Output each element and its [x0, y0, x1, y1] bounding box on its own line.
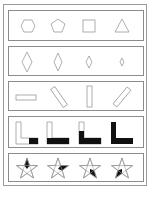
row-l-shapes — [8, 116, 144, 148]
rectangle-horizontal-icon — [16, 95, 36, 100]
triangle-icon — [115, 19, 129, 32]
star-4-icon — [112, 158, 133, 178]
rectangle-vertical-icon — [87, 86, 92, 107]
hexagon-icon — [21, 20, 35, 32]
diamond-medium-icon — [54, 53, 62, 71]
row-diamonds — [8, 46, 144, 76]
diamond-small-icon — [86, 56, 92, 68]
pentagon-icon — [51, 19, 65, 32]
star-3-icon — [80, 158, 101, 178]
star-2-icon — [48, 158, 69, 178]
l-shape-4-icon — [111, 122, 133, 144]
rectangle-diagonal-down-icon — [51, 87, 68, 108]
l-shape-1-icon — [16, 122, 38, 144]
l-shape-3-icon — [79, 122, 101, 144]
row-polygons — [8, 10, 144, 41]
diamond-tiny-icon — [120, 58, 124, 66]
star-1-icon — [17, 158, 38, 178]
rectangle-diagonal-up-icon — [113, 87, 131, 107]
l-shape-2-icon — [47, 122, 69, 144]
diamond-large-icon — [22, 52, 32, 72]
row-stars — [8, 153, 144, 182]
square-icon — [83, 20, 95, 32]
row-rectangles — [8, 81, 144, 111]
